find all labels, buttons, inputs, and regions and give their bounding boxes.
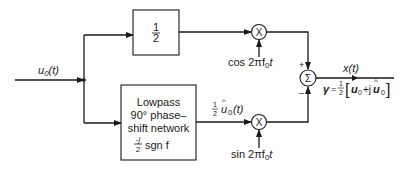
top-multiplier: X bbox=[252, 25, 267, 40]
svg-text:(t): (t) bbox=[233, 103, 244, 115]
svg-text:u: u bbox=[351, 83, 358, 95]
phase-shift-network-block: Lowpass 90° phase– shift network -j 2 sg… bbox=[121, 85, 196, 160]
minus-sign: – bbox=[299, 88, 304, 98]
bottom-multiplier: X bbox=[252, 115, 267, 130]
output-label: x(t) bbox=[342, 62, 359, 74]
gain-denominator: 2 bbox=[153, 32, 159, 44]
svg-text:1: 1 bbox=[339, 80, 343, 87]
block-line-3: shift network bbox=[128, 122, 190, 134]
svg-text:+j: +j bbox=[363, 84, 371, 95]
multiply-icon: X bbox=[256, 117, 263, 128]
svg-text:1: 1 bbox=[213, 101, 217, 108]
output-equation: γ = 1 2 [ u 0 +j ^ u 0 ] bbox=[323, 77, 390, 98]
sigma-icon: Σ bbox=[305, 73, 311, 84]
input-signal: u0(t) bbox=[15, 64, 86, 82]
hilbert-signal-label: 1 2 ^ u 0 (t) bbox=[212, 97, 244, 117]
svg-text:]: ] bbox=[386, 81, 390, 98]
transfer-sgn: sgn f bbox=[145, 139, 170, 151]
block-diagram: u0(t) 1 2 Lowpass 90° phase– shift netwo… bbox=[0, 0, 402, 171]
transfer-denominator: 2 bbox=[136, 145, 141, 154]
cos-carrier-label: cos 2πf0t bbox=[228, 56, 273, 70]
svg-text:u: u bbox=[221, 103, 227, 115]
multiply-icon: X bbox=[256, 27, 263, 38]
svg-text:=: = bbox=[331, 84, 336, 94]
svg-text:0: 0 bbox=[358, 89, 362, 96]
block-line-1: Lowpass bbox=[137, 96, 181, 108]
gain-block-half: 1 2 bbox=[133, 10, 179, 55]
svg-text:[: [ bbox=[345, 81, 350, 98]
block-line-2: 90° phase– bbox=[131, 109, 188, 121]
svg-text:0: 0 bbox=[381, 89, 385, 96]
sin-carrier-label: sin 2πf0t bbox=[231, 148, 273, 162]
svg-text:2: 2 bbox=[339, 89, 343, 96]
plus-sign: + bbox=[299, 60, 304, 70]
svg-text:2: 2 bbox=[213, 110, 217, 117]
input-label: u0(t) bbox=[38, 64, 59, 78]
svg-text:γ: γ bbox=[323, 83, 330, 95]
summing-junction: Σ bbox=[300, 70, 316, 86]
transfer-numerator: -j bbox=[136, 135, 141, 144]
output-arrowhead bbox=[352, 75, 358, 81]
svg-text:u: u bbox=[373, 83, 380, 95]
